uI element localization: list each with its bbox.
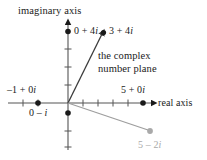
annotation-complex-plane-line1: the complex — [98, 50, 151, 62]
point-0-plus-4i — [65, 29, 71, 35]
imaginary-axis — [65, 24, 72, 150]
label-0-minus-i: 0 – i — [29, 108, 47, 118]
imaginary-axis-label: imaginary axis — [18, 6, 82, 17]
point-0-minus-i — [65, 110, 71, 116]
label-5-minus-2i: 5 – 2i — [138, 140, 161, 150]
label-3-plus-4i: 3 + 4i — [109, 26, 133, 36]
label-5-plus-0i: 5 + 0i — [121, 85, 145, 95]
plot-canvas — [0, 0, 207, 160]
real-axis-label: real axis — [158, 98, 193, 108]
annotation-complex-plane-line2: number plane — [98, 63, 157, 75]
point-3-plus-4i — [101, 30, 106, 35]
point-5-plus-0i — [140, 100, 146, 106]
label-minus1-plus-0i: –1 + 0i — [7, 85, 36, 95]
point-minus1-plus-0i — [35, 100, 41, 106]
real-axis — [8, 100, 152, 107]
vector-5-minus-2i — [68, 103, 148, 130]
label-0-plus-4i: 0 + 4i — [74, 26, 98, 36]
point-5-minus-2i — [147, 128, 153, 134]
complex-number-plane-figure: imaginary axis real axis 3 + 4i 0 + 4i –… — [0, 0, 207, 160]
vector-3-plus-4i — [68, 34, 102, 103]
